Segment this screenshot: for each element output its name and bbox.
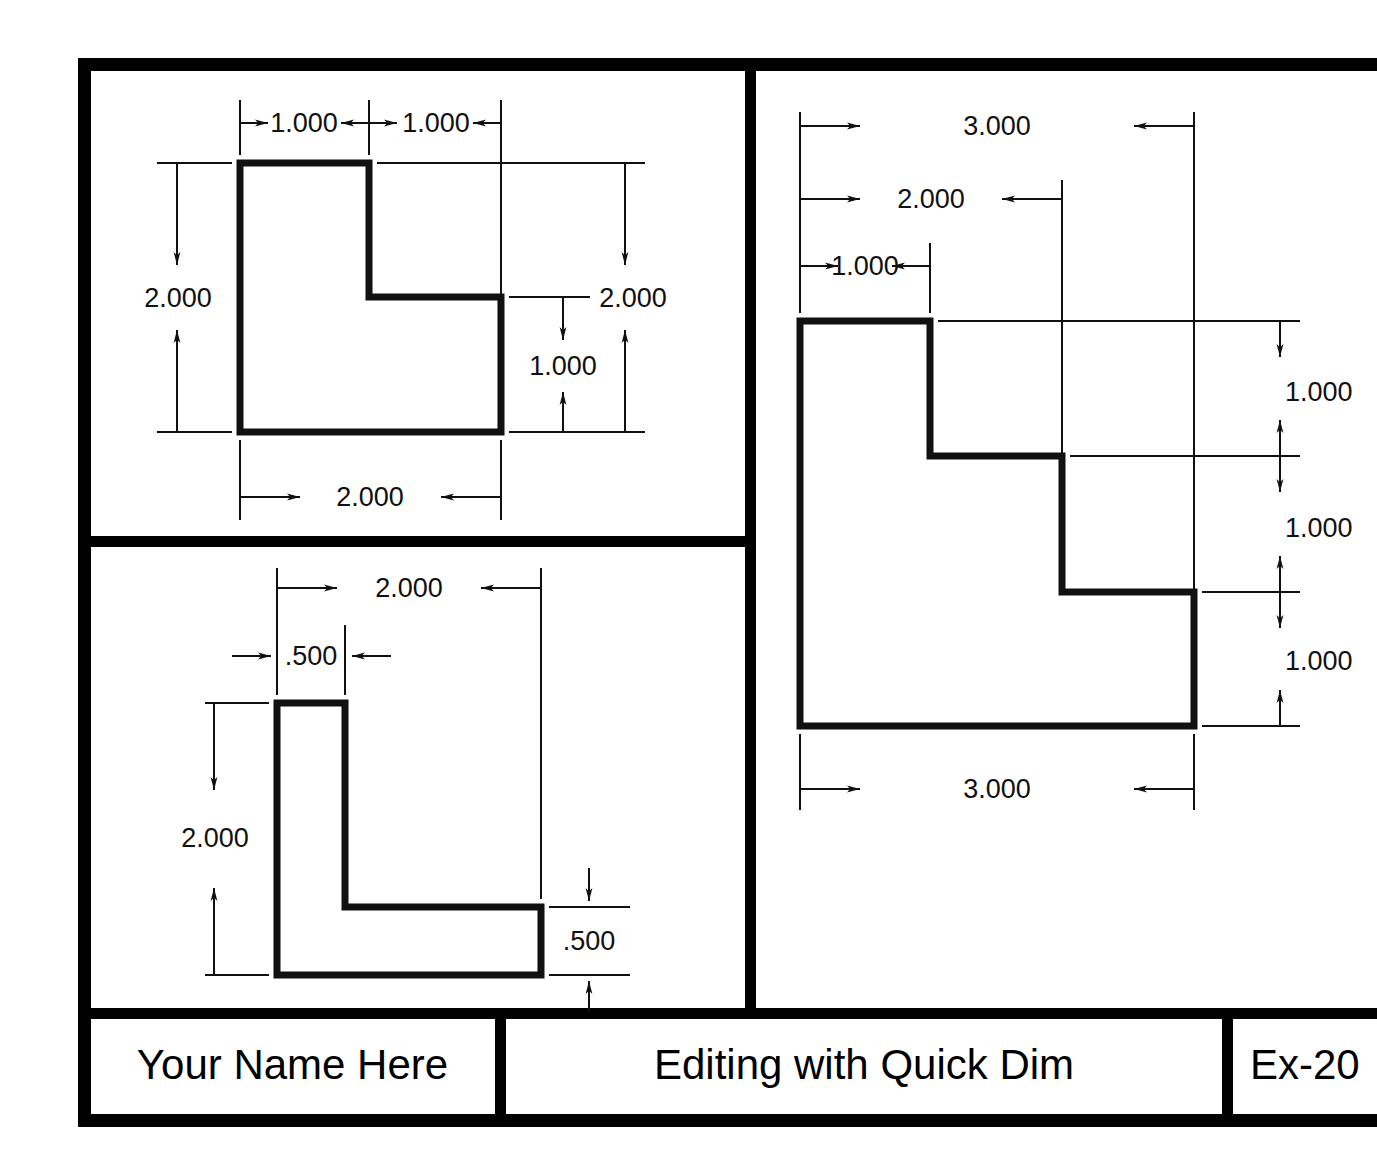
title-block-title-cell: Editing with Quick Dim	[510, 1030, 1218, 1100]
title-block-top-rule	[78, 1008, 1377, 1019]
dim-text-rv-right-1: 1.000	[1285, 377, 1353, 407]
dim-text-bl-top: 2.000	[375, 573, 443, 603]
part-outline-bottom-left	[277, 703, 541, 975]
dim-text-rv-top-1: 1.000	[831, 251, 899, 281]
title-block-number-text: Ex-20	[1250, 1041, 1360, 1089]
part-outline-top-left	[240, 163, 501, 432]
technical-drawing-canvas: 1.000 1.000 2.000 2.000 1.000 2.000	[0, 0, 1377, 1162]
dim-text-rv-bottom-3: 3.000	[963, 774, 1031, 804]
dim-text-bl-left: 2.000	[181, 823, 249, 853]
title-block-title-text: Editing with Quick Dim	[654, 1041, 1074, 1089]
dim-text-bl-leg: .500	[285, 641, 338, 671]
extension-lines-bottom-left	[205, 568, 630, 975]
title-block-name-text: Your Name Here	[137, 1041, 448, 1089]
dim-text-rv-top-2: 2.000	[897, 184, 965, 214]
dim-text-tl-bottom: 2.000	[336, 482, 404, 512]
dimension-texts-top-left: 1.000 1.000 2.000 2.000 1.000 2.000	[144, 108, 667, 512]
title-block-separator-2	[1222, 1014, 1233, 1115]
dimension-texts-right: 3.000 2.000 1.000 1.000 1.000 1.000 3.00…	[831, 111, 1352, 804]
dim-text-rv-right-2: 1.000	[1285, 513, 1353, 543]
dim-text-tl-left: 2.000	[144, 283, 212, 313]
dim-text-tl-right-outer: 2.000	[599, 283, 667, 313]
part-outline-right	[800, 321, 1194, 726]
title-block-separator-1	[495, 1014, 506, 1115]
dimension-lines-top-left	[177, 123, 625, 497]
dim-text-rv-right-3: 1.000	[1285, 646, 1353, 676]
dimension-texts-bottom-left: 2.000 .500 2.000 .500	[181, 573, 615, 956]
panel-divider-horizontal	[85, 536, 750, 547]
dim-text-tl-top-left: 1.000	[270, 108, 338, 138]
drawing-sheet: 1.000 1.000 2.000 2.000 1.000 2.000	[0, 0, 1377, 1162]
dim-text-rv-top-3: 3.000	[963, 111, 1031, 141]
dim-text-tl-top-right: 1.000	[402, 108, 470, 138]
view-top-left: 1.000 1.000 2.000 2.000 1.000 2.000	[144, 100, 667, 520]
title-block-number-cell: Ex-20	[1250, 1030, 1377, 1100]
dim-text-tl-right-inner: 1.000	[529, 351, 597, 381]
extension-lines-top-left	[157, 100, 645, 520]
view-right: 3.000 2.000 1.000 1.000 1.000 1.000 3.00…	[800, 111, 1353, 810]
dim-text-bl-foot: .500	[563, 926, 616, 956]
title-block-name-cell: Your Name Here	[95, 1030, 490, 1100]
view-bottom-left: 2.000 .500 2.000 .500	[181, 568, 630, 1012]
dimension-lines-bottom-left	[214, 588, 589, 1012]
extension-lines-right	[800, 112, 1300, 810]
